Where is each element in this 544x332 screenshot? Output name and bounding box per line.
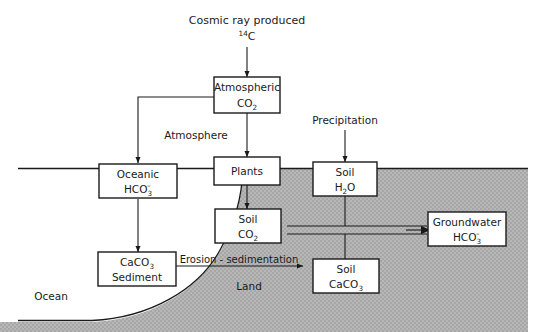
carbon-cycle-diagram: Cosmic ray produced 14C Atmospheric CO2 …	[0, 0, 544, 332]
label-soil-h2o-line1: Soil	[336, 166, 355, 178]
cosmic-ray-label-line1: Cosmic ray produced	[189, 14, 305, 27]
formula-sub-2: 2	[253, 103, 258, 112]
cosmic-ray-isotope: 14C	[239, 29, 256, 43]
formula-caco-soil: CaCO	[329, 278, 358, 290]
formula-sub-3-caco: 3	[149, 262, 154, 271]
formula-sub-3-soil: 3	[358, 284, 363, 293]
formula-h: H	[335, 181, 343, 193]
label-soil-caco3-line1: Soil	[337, 263, 356, 275]
formula-co: CO	[237, 97, 253, 109]
formula-caco: CaCO	[120, 256, 149, 268]
formula-hco-gw: HCO	[453, 231, 477, 243]
label-precipitation: Precipitation	[312, 114, 378, 126]
label-groundwater-hco3-line1: Groundwater	[433, 216, 502, 228]
label-soil-co2-line1: Soil	[239, 213, 258, 225]
label-caco3-sediment-line2: Sediment	[112, 271, 162, 283]
formula-charge-minus-gw: –	[476, 229, 480, 238]
region-label-land: Land	[236, 280, 262, 292]
isotope-mass-number: 14	[239, 29, 249, 38]
formula-hco: HCO	[124, 183, 148, 195]
label-oceanic-hco3-line1: Oceanic	[117, 168, 160, 180]
diagram-canvas: Cosmic ray produced 14C Atmospheric CO2 …	[0, 0, 544, 332]
formula-charge-minus: –	[147, 181, 151, 190]
label-plants: Plants	[231, 165, 263, 177]
region-label-atmosphere: Atmosphere	[164, 129, 228, 141]
formula-sub-3: 3	[147, 189, 152, 198]
formula-sub-3-gw: 3	[476, 237, 481, 246]
label-groundwater-hco3-line2: HCO3–	[453, 229, 481, 246]
isotope-element: C	[248, 30, 256, 43]
label-atmospheric-co2-line1: Atmospheric	[214, 81, 280, 93]
region-label-ocean: Ocean	[34, 290, 68, 302]
formula-co-soil: CO	[238, 228, 254, 240]
label-oceanic-hco3-line2: HCO3–	[124, 181, 152, 198]
edge-label-erosion-sedimentation: Erosion - sedimentation	[180, 254, 299, 265]
formula-sub-2-soil: 2	[254, 234, 259, 243]
formula-o: O	[347, 181, 355, 193]
